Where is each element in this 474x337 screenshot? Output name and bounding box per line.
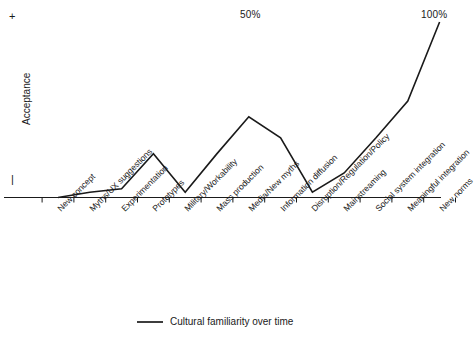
y-axis-high-symbol: + [9, 11, 15, 22]
y-axis-low-symbol: | [11, 174, 14, 185]
annotation-end-percent: 100% [421, 10, 447, 20]
legend-series-label: Cultural familiarity over time [170, 317, 293, 327]
annotation-mid-percent: 50% [240, 10, 261, 20]
y-axis-label: Acceptance [22, 73, 32, 125]
